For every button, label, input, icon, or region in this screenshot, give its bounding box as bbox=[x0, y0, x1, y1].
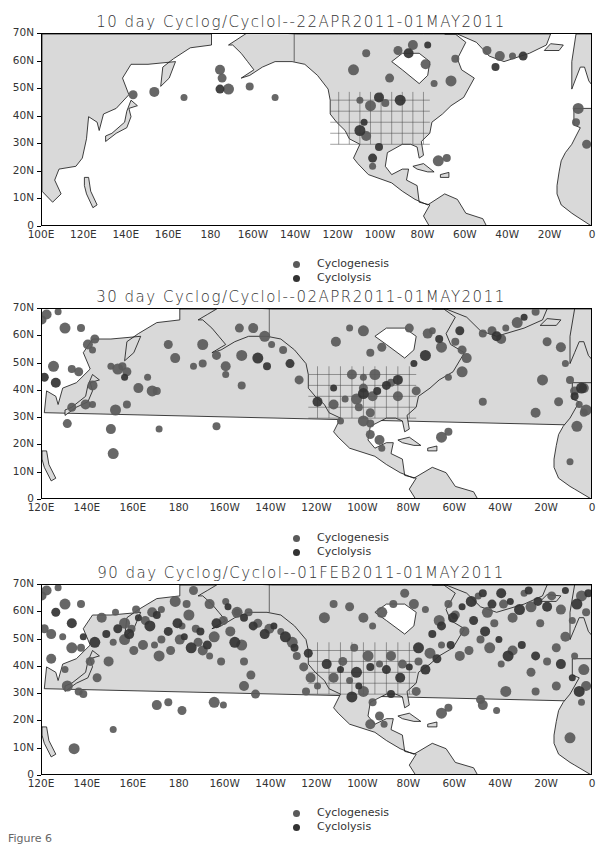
cyclone-point bbox=[448, 613, 458, 623]
cyclone-point bbox=[153, 611, 161, 619]
cyclone-point bbox=[89, 637, 100, 648]
cyclone-point bbox=[533, 597, 542, 606]
cyclone-point bbox=[400, 589, 409, 598]
cyclone-point bbox=[151, 642, 158, 649]
cyclone-point bbox=[432, 654, 441, 663]
cyclone-point bbox=[375, 712, 384, 721]
cyclone-point bbox=[552, 682, 561, 691]
cyclone-point bbox=[220, 702, 227, 709]
cyclone-point bbox=[80, 633, 87, 640]
cyclone-point bbox=[455, 651, 465, 661]
cyclone-point bbox=[478, 700, 488, 710]
cyclone-point bbox=[203, 641, 212, 650]
cyclone-point bbox=[205, 599, 215, 609]
cyclone-point bbox=[547, 591, 556, 600]
cyclone-point bbox=[578, 664, 589, 675]
cyclone-point bbox=[444, 600, 452, 608]
cyclogenesis-marker-icon bbox=[293, 810, 300, 817]
cyclone-point bbox=[189, 586, 198, 595]
cyclone-point bbox=[556, 659, 566, 669]
cyclone-point bbox=[531, 651, 540, 660]
cyclone-point bbox=[240, 614, 248, 622]
cyclone-point bbox=[369, 622, 376, 629]
x-tick-label: 80W bbox=[396, 777, 420, 789]
cyclone-point bbox=[280, 631, 291, 642]
cyclone-point bbox=[562, 587, 569, 594]
cyclone-point bbox=[525, 587, 533, 595]
legend-item-cyclolysis: Cyclolysis bbox=[293, 820, 389, 834]
cyclone-point bbox=[500, 686, 511, 697]
cyclone-point bbox=[186, 642, 197, 653]
cyclone-point bbox=[181, 633, 188, 640]
cyclone-point bbox=[217, 657, 225, 665]
x-tick-label: 20W bbox=[534, 777, 558, 789]
cyclone-point bbox=[229, 637, 240, 648]
cyclone-point bbox=[345, 602, 354, 611]
cyclone-point bbox=[166, 646, 175, 655]
cyclone-point bbox=[152, 700, 162, 710]
cyclone-point bbox=[518, 641, 526, 649]
x-tick-label: 160W bbox=[209, 777, 239, 789]
cyclone-point bbox=[527, 668, 536, 677]
cyclone-point bbox=[183, 600, 191, 608]
cyclone-point bbox=[459, 626, 469, 636]
cyclone-point bbox=[209, 631, 220, 642]
cyclone-point bbox=[508, 613, 518, 623]
cyclone-point bbox=[322, 659, 332, 669]
cyclone-point bbox=[498, 661, 505, 668]
cyclone-point bbox=[112, 609, 119, 616]
cyclone-point bbox=[389, 600, 397, 608]
legend-label: Cyclolysis bbox=[317, 820, 371, 834]
cyclone-point bbox=[170, 596, 181, 607]
cyclone-point bbox=[304, 649, 313, 658]
cyclone-point bbox=[260, 629, 270, 639]
cyclone-point bbox=[206, 652, 213, 659]
cyclone-point bbox=[67, 618, 77, 628]
y-tick-mark bbox=[37, 720, 41, 721]
cyclone-point bbox=[173, 618, 183, 628]
cyclone-point bbox=[164, 698, 172, 706]
y-tick-mark bbox=[37, 639, 41, 640]
cyclone-point bbox=[62, 681, 73, 692]
cyclone-point bbox=[59, 633, 66, 640]
cyclone-point bbox=[66, 642, 77, 653]
cyclone-point bbox=[246, 671, 255, 680]
legend: Cyclogenesis Cyclolysis bbox=[293, 806, 389, 834]
cyclone-point bbox=[437, 621, 446, 630]
cyclone-point bbox=[496, 588, 506, 598]
x-tick-label: 40W bbox=[488, 777, 512, 789]
cyclone-point bbox=[346, 691, 357, 702]
cyclone-point bbox=[428, 630, 436, 638]
cyclone-point bbox=[447, 641, 455, 649]
panel-title: 90 day Cyclog/Cyclol--01FEB2011-01MAY201… bbox=[0, 564, 602, 582]
y-tick-mark bbox=[37, 693, 41, 694]
y-tick-mark bbox=[37, 775, 41, 776]
cyclone-point bbox=[406, 663, 413, 670]
map-canvas bbox=[42, 585, 592, 775]
y-tick-label: 40N bbox=[2, 659, 34, 671]
x-tick-label: 100W bbox=[347, 777, 377, 789]
y-tick-mark bbox=[37, 584, 41, 585]
cyclone-point bbox=[366, 663, 374, 671]
cyclone-point bbox=[376, 661, 383, 668]
cyclone-point bbox=[469, 616, 478, 625]
cyclone-point bbox=[46, 654, 56, 664]
legend-item-cyclogenesis: Cyclogenesis bbox=[293, 806, 389, 820]
y-tick-label: 70N bbox=[2, 577, 34, 589]
y-tick-mark bbox=[37, 611, 41, 612]
cyclone-point bbox=[409, 599, 419, 609]
cyclone-point bbox=[386, 651, 396, 661]
cyclone-point bbox=[46, 629, 56, 639]
cyclone-point bbox=[69, 743, 80, 754]
cyclone-point bbox=[239, 681, 249, 691]
cyclone-point bbox=[493, 707, 500, 714]
cyclone-point bbox=[552, 643, 561, 652]
cyclone-point bbox=[293, 652, 301, 660]
cyclone-point bbox=[60, 599, 71, 610]
cyclone-point bbox=[363, 650, 374, 661]
cyclone-point bbox=[556, 605, 566, 615]
cyclone-point bbox=[350, 644, 358, 652]
cyclone-point bbox=[338, 657, 347, 666]
figure-caption: Figure 6 bbox=[8, 832, 52, 845]
cyclone-point bbox=[132, 606, 140, 614]
